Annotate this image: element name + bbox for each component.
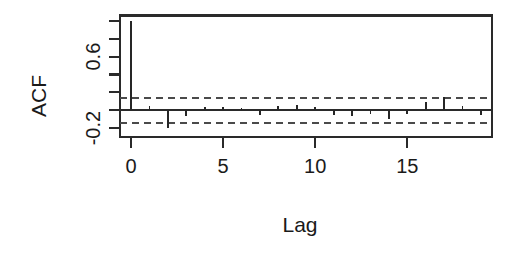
x-axis-tick-label: 5 [218, 155, 229, 177]
x-axis-ticks [131, 137, 407, 148]
x-axis-tick-label: 15 [396, 155, 418, 177]
x-axis-title: Lag [282, 213, 317, 236]
x-axis-tick-label: 0 [125, 155, 136, 177]
x-axis-tick-labels: 051015 [125, 155, 418, 177]
y-axis-ticks [109, 21, 120, 128]
x-axis-tick-label: 10 [304, 155, 326, 177]
y-axis-tick-labels: 0.6-0.2 [82, 43, 104, 146]
acf-plot-figure: ACF 0.6-0.2 051015 Lag [0, 0, 520, 260]
plot-box [120, 16, 492, 138]
acf-spikes-group [131, 21, 481, 128]
acf-plot-svg: ACF 0.6-0.2 051015 Lag [0, 0, 520, 260]
y-axis-tick-label: 0.6 [82, 43, 104, 71]
y-axis-title: ACF [27, 75, 50, 117]
y-axis-tick-label: -0.2 [82, 111, 104, 145]
